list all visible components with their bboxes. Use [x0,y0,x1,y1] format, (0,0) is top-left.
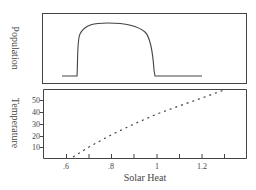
population-plot-frame [43,14,247,84]
svg-text:.8: .8 [108,162,114,171]
solar-heat-axis-label: Solar Heat [124,172,167,183]
population-panel: Population [10,14,247,84]
svg-text:20: 20 [32,132,40,141]
svg-text:1: 1 [155,162,159,171]
temperature-plot-frame [44,90,247,159]
svg-text:50: 50 [32,96,40,105]
temperature-axis-label: Temperature [10,98,21,149]
x-axis-tick-labels: .6 .8 1 1.2 [63,162,207,171]
temperature-curve [73,90,224,157]
svg-text:10: 10 [32,143,40,152]
svg-text:.6: .6 [63,162,69,171]
population-axis-label: Population [10,26,21,69]
x-axis-ticks [67,154,225,158]
temperature-panel: 50 40 30 20 10 .6 .8 1 1.2 Temperature S… [10,90,247,184]
y-axis-tick-labels: 50 40 30 20 10 [32,96,40,152]
chart-figure: Population 50 40 30 20 10 [0,0,256,190]
svg-text:30: 30 [32,120,40,129]
svg-text:40: 40 [32,108,40,117]
population-curve [62,23,202,76]
svg-text:1.2: 1.2 [197,162,207,171]
